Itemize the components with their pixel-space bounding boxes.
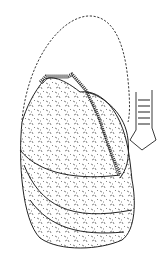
line-drawing-figure — [0, 0, 167, 256]
tube-structure — [130, 90, 156, 150]
main-body — [21, 78, 135, 248]
figure-svg — [0, 0, 167, 256]
